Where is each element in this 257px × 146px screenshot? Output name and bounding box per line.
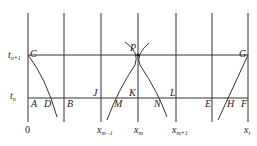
label-point-n: N bbox=[153, 98, 162, 109]
label-x-t: xt bbox=[243, 124, 250, 136]
label-point-c: C bbox=[30, 48, 37, 59]
label-point-e: E bbox=[204, 98, 211, 109]
point-p-marker bbox=[136, 53, 139, 56]
label-point-m: M bbox=[113, 98, 123, 109]
label-x-m: xm bbox=[133, 124, 143, 136]
label-tn: tn bbox=[10, 90, 16, 102]
characteristic-line-gh bbox=[218, 55, 248, 120]
characteristics-grid-diagram: tn+1 tn C P G A D B J M K N L E H F 0 xm… bbox=[0, 0, 257, 146]
label-point-g: G bbox=[239, 48, 246, 59]
label-point-l: L bbox=[169, 87, 176, 98]
label-point-b: B bbox=[67, 98, 73, 109]
label-point-p: P bbox=[129, 42, 136, 53]
label-point-a: A bbox=[30, 98, 38, 109]
label-point-d: D bbox=[43, 98, 52, 109]
label-x-origin: 0 bbox=[25, 124, 30, 135]
label-x-m+1: xm+1 bbox=[171, 124, 188, 136]
label-point-k: K bbox=[128, 87, 137, 98]
label-x-m-1: xm−1 bbox=[96, 124, 113, 136]
label-tn+1: tn+1 bbox=[8, 49, 21, 61]
characteristic-curve-pn bbox=[139, 43, 167, 117]
label-point-h: H bbox=[226, 98, 235, 109]
label-point-j: J bbox=[93, 87, 98, 98]
label-point-f: F bbox=[240, 98, 248, 109]
